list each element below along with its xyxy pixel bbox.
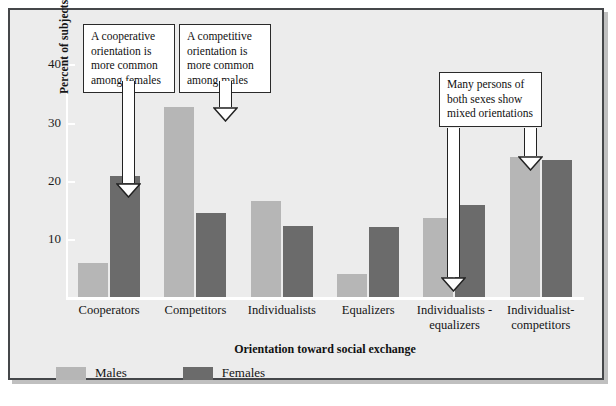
- arrow-shaft: [122, 81, 135, 183]
- legend-swatch: [183, 367, 213, 380]
- bar-females: [369, 227, 399, 297]
- bar-females: [196, 213, 226, 297]
- legend-label: Females: [222, 365, 265, 381]
- callout-mixed: Many persons of both sexes show mixed or…: [439, 72, 542, 127]
- bar-females: [283, 226, 313, 297]
- arrow-head-icon: [213, 107, 238, 122]
- legend-item: Males: [56, 365, 127, 381]
- arrow-head-icon: [116, 183, 141, 198]
- bar-males: [78, 263, 108, 297]
- x-axis-title: Orientation toward social exchange: [66, 342, 584, 357]
- y-tick-label: 20: [48, 172, 61, 190]
- arrow-head-icon: [518, 156, 543, 171]
- bar-males: [251, 201, 281, 297]
- bar-males: [164, 107, 194, 297]
- bar-males: [510, 157, 540, 297]
- x-tick-label: Individualist- competitors: [486, 303, 596, 333]
- legend-swatch: [56, 367, 86, 380]
- y-tick-label: 10: [48, 230, 61, 248]
- arrow-head-icon: [441, 277, 466, 292]
- arrow-shaft: [524, 128, 537, 156]
- bar-males: [337, 274, 367, 297]
- x-axis-line: [66, 297, 584, 300]
- bar-group: Equalizers: [325, 47, 411, 297]
- y-tick-label: 30: [48, 114, 61, 132]
- arrow-shaft: [219, 81, 232, 107]
- legend-label: Males: [95, 365, 127, 381]
- legend: MalesFemales: [56, 365, 265, 381]
- chart-figure: 10203040 Percent of subjects showing eac…: [8, 8, 604, 380]
- bar-females: [542, 160, 572, 297]
- arrow-shaft: [447, 128, 460, 277]
- legend-item: Females: [183, 365, 265, 381]
